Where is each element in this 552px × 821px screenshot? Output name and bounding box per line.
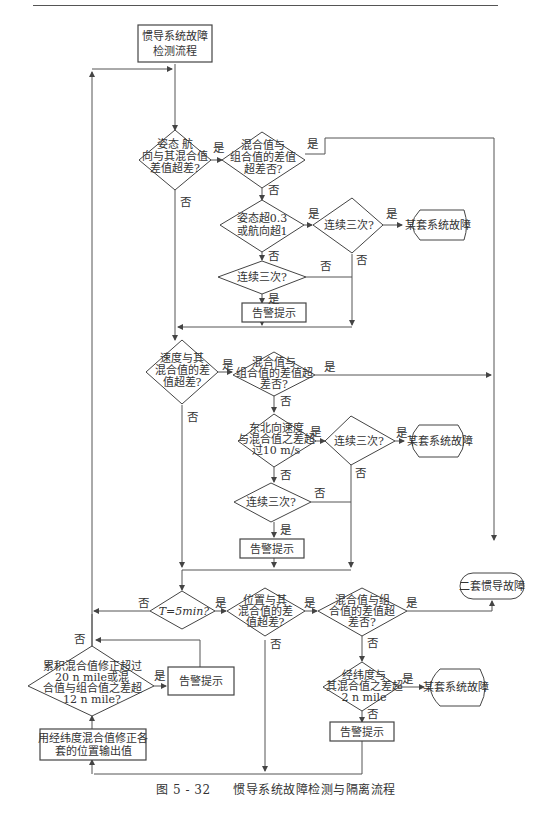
svg-text:否: 否: [268, 183, 280, 197]
svg-text:姿态 航: 姿态 航: [157, 137, 194, 151]
decision-attitude-threshold: 姿态超0.3 或航向超1: [220, 200, 304, 252]
svg-text:是: 是: [222, 358, 234, 372]
svg-text:告警提示: 告警提示: [250, 542, 294, 556]
svg-text:是: 是: [310, 425, 322, 439]
svg-text:差否?: 差否?: [348, 615, 376, 629]
decision-velocity-deviation: 速度与其 混合值的差 值超差?: [146, 340, 218, 404]
terminal-system-fault-1: 某套系统故障: [405, 210, 471, 240]
svg-text:差否?: 差否?: [260, 377, 288, 391]
decision-consecutive-3-1a: 连续三次?: [313, 198, 383, 253]
svg-text:是: 是: [280, 523, 292, 537]
svg-text:否: 否: [367, 636, 379, 650]
svg-text:否: 否: [187, 410, 199, 424]
svg-text:是: 是: [154, 669, 166, 683]
svg-text:告警提示: 告警提示: [179, 674, 223, 688]
svg-text:是: 是: [307, 137, 319, 151]
svg-text:检测流程: 检测流程: [153, 44, 197, 58]
svg-text:2 n mile: 2 n mile: [341, 691, 386, 704]
svg-text:是: 是: [406, 596, 418, 610]
svg-text:二套惯导故障: 二套惯导故障: [459, 579, 525, 593]
figure-caption: 图 5 - 32 惯导系统故障检测与隔离流程: [0, 780, 552, 797]
start-node: 惯导系统故障 检测流程: [138, 25, 212, 62]
svg-text:是: 是: [308, 207, 320, 221]
flowchart: 惯导系统故障 检测流程 姿态 航 向与其混合值 差值超差? 混合值与 组合值的差…: [0, 0, 552, 780]
svg-text:否: 否: [180, 195, 192, 209]
svg-text:值超差?: 值超差?: [163, 375, 202, 389]
svg-text:否: 否: [280, 468, 292, 482]
decision-velocity-threshold: 东北向速度 与混合值之差超 过10 m/s: [238, 414, 317, 467]
svg-text:混合值的差: 混合值的差: [155, 363, 210, 377]
terminal-system-fault-2: 某套系统故障: [407, 425, 473, 457]
svg-text:否: 否: [74, 632, 86, 646]
decision-time-5min: T=5min?: [150, 591, 215, 629]
svg-text:混合值与: 混合值与: [241, 138, 285, 152]
svg-text:某套系统故障: 某套系统故障: [405, 218, 471, 232]
svg-text:姿态超0.3: 姿态超0.3: [237, 211, 288, 225]
svg-text:否: 否: [367, 707, 379, 721]
svg-text:否: 否: [314, 486, 326, 500]
decision-mix-vs-combined-1: 混合值与 组合值的差值 超差否?: [222, 132, 305, 188]
svg-text:速度与其: 速度与其: [160, 351, 204, 365]
svg-text:是: 是: [386, 207, 398, 221]
alarm-box-4: 告警提示: [168, 667, 234, 695]
svg-text:连续三次?: 连续三次?: [246, 495, 296, 509]
svg-text:12 n mile?: 12 n mile?: [63, 693, 121, 706]
svg-text:是: 是: [304, 596, 316, 610]
svg-text:套的位置输出值: 套的位置输出值: [55, 744, 132, 758]
svg-text:连续三次?: 连续三次?: [237, 270, 287, 284]
svg-text:否: 否: [280, 394, 292, 408]
alarm-box-2: 告警提示: [240, 539, 304, 558]
decision-position-deviation: 位置与其 混合值的差 值超差?: [227, 588, 305, 636]
svg-text:否: 否: [320, 259, 332, 273]
svg-text:用经纬度混合值修正各: 用经纬度混合值修正各: [38, 731, 148, 745]
decision-attitude-deviation: 姿态 航 向与其混合值 差值超差?: [139, 130, 211, 190]
svg-text:否: 否: [268, 249, 280, 263]
process-correct-position: 用经纬度混合值修正各 套的位置输出值: [38, 729, 148, 760]
decision-consecutive-3-2b: 连续三次?: [234, 483, 311, 522]
figure-number: 图 5 - 32: [156, 783, 210, 797]
svg-text:是: 是: [324, 360, 336, 374]
decision-mix-vs-combined-3: 混合值与组 合值的差值超 差否?: [318, 588, 407, 636]
svg-text:是: 是: [402, 672, 414, 686]
svg-text:是: 是: [213, 141, 225, 155]
svg-text:过10 m/s: 过10 m/s: [252, 444, 301, 457]
svg-text:组合值的差值: 组合值的差值: [230, 150, 296, 164]
figure-title: 惯导系统故障检测与隔离流程: [233, 783, 396, 797]
decision-position-threshold: 经纬度与 其混合值之差超 2 n mile: [323, 662, 403, 711]
svg-text:T=5min?: T=5min?: [159, 605, 210, 618]
svg-text:某套系统故障: 某套系统故障: [407, 434, 473, 448]
svg-text:告警提示: 告警提示: [252, 306, 296, 320]
svg-text:超差否?: 超差否?: [244, 162, 283, 176]
decision-cumulative-correction: 累积混合值修正超过 20 n mile或混 合值与组合值之差超 12 n mil…: [28, 646, 154, 716]
svg-text:或航向超1: 或航向超1: [237, 224, 288, 238]
terminal-system-fault-3: 某套系统故障: [423, 669, 489, 706]
svg-text:某套系统故障: 某套系统故障: [423, 680, 489, 694]
svg-text:值超差?: 值超差?: [246, 615, 285, 629]
svg-text:是: 是: [215, 596, 227, 610]
terminal-dual-ins-fault: 二套惯导故障: [459, 573, 525, 599]
decision-consecutive-3-1b: 连续三次?: [218, 261, 306, 294]
svg-text:否: 否: [138, 596, 150, 610]
svg-text:连续三次?: 连续三次?: [334, 434, 384, 448]
svg-text:否: 否: [270, 637, 282, 651]
svg-text:惯导系统故障: 惯导系统故障: [142, 29, 208, 43]
decision-mix-vs-combined-2: 混合值与 组合值的差值超 差否?: [233, 352, 315, 396]
svg-text:是: 是: [396, 426, 408, 440]
alarm-box-3: 告警提示: [330, 722, 394, 741]
svg-text:差值超差?: 差值超差?: [150, 161, 200, 175]
svg-text:向与其混合值: 向与其混合值: [142, 149, 208, 163]
decision-consecutive-3-2a: 连续三次?: [325, 416, 395, 465]
svg-text:否: 否: [355, 466, 367, 480]
svg-text:告警提示: 告警提示: [340, 725, 384, 739]
svg-text:是: 是: [268, 292, 280, 306]
svg-text:否: 否: [356, 253, 368, 267]
svg-text:连续三次?: 连续三次?: [324, 218, 374, 232]
